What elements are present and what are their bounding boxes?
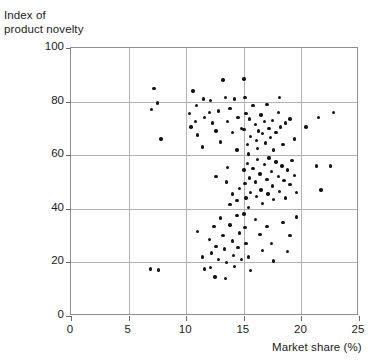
data-point [156,101,159,104]
data-point [150,108,153,111]
data-point [235,148,238,151]
data-point [261,132,264,135]
data-point [228,107,231,110]
data-point [242,212,245,215]
gridline-vertical [186,48,187,314]
data-point [247,255,250,258]
gridline-vertical [129,48,130,314]
y-tick-labels: 020406080100 [16,47,64,315]
data-point [249,135,252,138]
data-point [271,119,274,122]
data-point [203,267,206,270]
data-point [240,258,243,261]
data-point [223,247,226,250]
data-point [261,249,264,252]
y-tick-label: 80 [20,95,64,107]
data-point [255,139,258,142]
data-point [242,168,245,171]
data-point [251,167,254,170]
data-point [231,131,234,134]
data-point [288,117,291,120]
data-point [238,187,241,190]
data-point [149,267,152,270]
data-point [282,179,285,182]
y-axis-tick [66,48,71,49]
data-point [246,162,249,165]
data-point [288,183,291,186]
x-axis-label: Market share (%) [272,341,362,354]
data-point [279,125,282,128]
data-point [219,140,222,143]
data-point [208,238,211,241]
data-point [254,180,257,183]
data-point [226,166,229,169]
data-point [284,196,287,199]
data-point [226,120,229,123]
data-point [295,191,298,194]
data-point [217,258,220,261]
data-point [221,78,224,81]
y-axis-tick [66,262,71,263]
data-point [251,104,254,107]
gridline-horizontal [71,102,357,103]
data-point [208,111,211,114]
data-point [274,131,277,134]
data-point [278,190,281,193]
data-point [269,136,272,139]
scatter-plot-figure: Index of product novelty 020406080100 05… [0,0,374,362]
data-point [274,160,277,163]
data-point [266,192,269,195]
y-tick-label: 0 [20,309,64,321]
data-point [214,245,217,248]
data-point [242,128,245,131]
x-axis-tick [359,316,360,321]
data-point [212,225,215,228]
data-point [228,223,231,226]
data-point [194,120,197,123]
data-point [267,127,270,130]
data-point [157,268,160,271]
data-point [233,265,236,268]
data-point [246,143,249,146]
data-point [286,250,289,253]
data-point [159,137,162,140]
data-point [211,121,214,124]
data-point [219,216,222,219]
data-point [196,230,199,233]
data-point [243,182,246,185]
data-point [189,125,192,128]
data-point [256,158,259,161]
data-point [201,255,204,258]
data-point [272,148,275,151]
data-point [255,195,258,198]
data-point [277,111,280,114]
data-point [225,261,228,264]
data-point [195,104,198,107]
data-point [232,254,235,257]
data-point [317,116,320,119]
y-axis-tick [66,209,71,210]
y-tick-label: 40 [20,202,64,214]
x-tick-label: 0 [50,324,90,336]
data-point [242,77,245,80]
data-point [213,275,216,278]
data-point [217,109,220,112]
data-point [244,112,247,115]
data-point [201,145,204,148]
data-point [295,215,298,218]
data-point [263,163,266,166]
data-point [152,87,155,90]
data-point [286,168,289,171]
data-point [209,266,212,269]
y-axis-label: Index of product novelty [4,8,84,36]
x-tick-label: 10 [165,324,205,336]
data-point [210,251,213,254]
data-point [244,196,247,199]
data-point [280,164,283,167]
data-point [263,120,266,123]
data-point [329,164,332,167]
data-point [235,214,238,217]
data-point [281,221,284,224]
x-tick-labels: 0510152025 [70,315,358,339]
data-point [258,233,261,236]
